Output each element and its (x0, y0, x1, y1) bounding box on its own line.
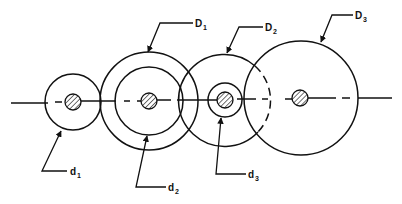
shaft-3-icon (217, 92, 233, 108)
leader-D2 (227, 27, 263, 53)
svg-text:2: 2 (175, 188, 179, 195)
svg-text:3: 3 (255, 175, 259, 182)
svg-text:2: 2 (273, 28, 277, 35)
shaft-2-icon (141, 93, 157, 109)
svg-text:d: d (248, 169, 254, 180)
label-d2: d 2 (168, 182, 179, 195)
svg-text:d: d (70, 166, 76, 177)
leader-d1 (42, 131, 67, 171)
svg-text:1: 1 (77, 172, 81, 179)
svg-text:D: D (355, 10, 362, 21)
svg-text:D: D (265, 22, 272, 33)
label-d1: d 1 (70, 166, 81, 179)
svg-text:1: 1 (203, 24, 207, 31)
svg-text:3: 3 (363, 16, 367, 23)
label-D3: D 3 (355, 10, 367, 23)
label-D2: D 2 (265, 22, 277, 35)
label-D1: D 1 (195, 18, 207, 31)
leader-D1 (148, 23, 193, 52)
leader-D3 (321, 15, 353, 42)
svg-text:d: d (168, 182, 174, 193)
leader-d2 (136, 136, 166, 187)
svg-text:D: D (195, 18, 202, 29)
shaft-1-icon (65, 94, 81, 110)
gear-train-diagram: D 1 D 2 D 3 d 1 d 2 d 3 (0, 0, 402, 204)
label-d3: d 3 (248, 169, 259, 182)
shaft-4-icon (292, 90, 308, 106)
